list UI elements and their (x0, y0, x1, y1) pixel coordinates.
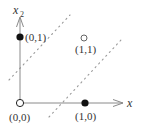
x-axis: x (20, 96, 133, 110)
point-label: (1,0) (75, 110, 96, 123)
open-circle-marker-icon (16, 99, 23, 106)
point-label: (0,0) (9, 111, 30, 124)
open-circle-marker-icon (81, 35, 87, 41)
filled-circle-marker-icon (81, 99, 88, 106)
point-label: (0,1) (25, 31, 46, 44)
filled-circle-marker-icon (16, 33, 23, 40)
xor-diagram: x 2 x (0,0) (0,1) (1,1) (1,0) (0, 0, 142, 128)
y-axis: x 2 (12, 3, 24, 103)
point-0-1: (0,1) (16, 31, 46, 44)
point-label: (1,1) (75, 43, 96, 56)
y-axis-label-subscript: 2 (20, 10, 24, 19)
upper-decision-line (9, 15, 70, 80)
point-1-1: (1,1) (75, 35, 96, 56)
x-axis-label: x (126, 96, 133, 110)
y-axis-label: x (12, 3, 19, 17)
